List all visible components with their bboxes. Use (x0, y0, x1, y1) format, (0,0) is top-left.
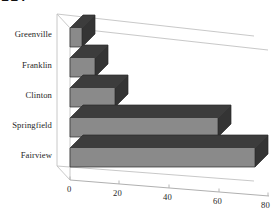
bar-clinton[interactable] (70, 75, 128, 107)
bar-franklin[interactable] (70, 45, 108, 77)
category-label-greenville: Greenville (0, 30, 52, 39)
category-label-franklin: Franklin (0, 61, 52, 70)
category-label-clinton: Clinton (0, 91, 52, 100)
bar-fairview[interactable] (70, 135, 268, 167)
x-tick-label-80: 80 (261, 201, 270, 210)
bar-greenville[interactable] (70, 15, 95, 47)
bar-springfield[interactable] (70, 105, 231, 137)
bar-chart-3d: PPT (0, 0, 274, 218)
x-tick-label-40: 40 (163, 193, 172, 202)
x-tick-label-0: 0 (67, 185, 71, 194)
x-tick-label-20: 20 (113, 189, 122, 198)
category-label-springfield: Springfield (0, 121, 52, 130)
x-tick-label-60: 60 (213, 197, 222, 206)
category-label-fairview: Fairview (0, 151, 52, 160)
